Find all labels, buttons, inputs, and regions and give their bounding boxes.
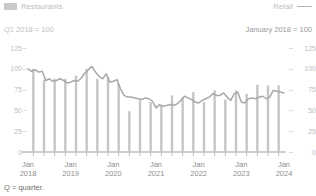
bar-swatch-icon bbox=[4, 3, 17, 10]
x-axis-label-month: Jan bbox=[136, 160, 176, 169]
chart-footnote: Q = quarter. bbox=[4, 183, 44, 192]
x-axis-label-year: 2024 bbox=[264, 169, 304, 178]
bar-q3-2020 bbox=[139, 100, 141, 152]
x-axis-label-2020: Jan2020 bbox=[93, 160, 133, 178]
chart-canvas bbox=[0, 40, 316, 156]
bar-q3-2023 bbox=[267, 85, 269, 152]
chart-legend: Restaurants Retail bbox=[0, 2, 316, 15]
bar-q2-2023 bbox=[256, 85, 258, 152]
x-axis-label-year: 2019 bbox=[51, 169, 91, 178]
plot-area: 1251007550250 1251007550250 bbox=[0, 40, 316, 156]
bar-q3-2022 bbox=[224, 100, 226, 152]
bar-q4-2022 bbox=[235, 90, 237, 152]
bar-q1-2019 bbox=[75, 75, 77, 152]
bar-q4-2018 bbox=[64, 79, 66, 152]
legend-label-retail: Retail bbox=[273, 2, 293, 11]
x-axis-label-year: 2021 bbox=[136, 169, 176, 178]
bar-q3-2018 bbox=[53, 79, 55, 152]
x-axis-label-year: 2020 bbox=[93, 169, 133, 178]
x-axis-label-year: 2023 bbox=[221, 169, 261, 178]
bar-q4-2019 bbox=[107, 77, 109, 152]
bar-q4-2020 bbox=[149, 102, 151, 152]
bar-q1-2022 bbox=[203, 102, 205, 152]
legend-item-retail: Retail bbox=[273, 2, 312, 11]
bar-q3-2021 bbox=[181, 97, 183, 152]
bar-q3-2019 bbox=[96, 79, 98, 152]
x-axis-label-month: Jan bbox=[179, 160, 219, 169]
restaurants-retail-index-chart: Restaurants Retail Q1 2018 = 100 January… bbox=[0, 0, 316, 196]
bar-q1-2020 bbox=[117, 84, 119, 152]
bar-q4-2023 bbox=[277, 85, 279, 152]
x-axis-label-year: 2022 bbox=[179, 169, 219, 178]
bar-q2-2021 bbox=[171, 95, 173, 152]
x-axis-label-month: Jan bbox=[51, 160, 91, 169]
axis-unit-row: Q1 2018 = 100 January 2018 = 100 bbox=[0, 25, 316, 37]
x-axis-label-month: Jan bbox=[221, 160, 261, 169]
legend-label-restaurants: Restaurants bbox=[21, 2, 63, 11]
right-axis-unit-label: January 2018 = 100 bbox=[245, 25, 312, 34]
bar-q1-2018 bbox=[32, 69, 34, 152]
x-axis-label-month: Jan bbox=[8, 160, 48, 169]
category-axis: Jan2018Jan2019Jan2020Jan2021Jan2022Jan20… bbox=[0, 160, 316, 180]
bar-q1-2021 bbox=[160, 105, 162, 152]
x-axis-label-2018: Jan2018 bbox=[8, 160, 48, 178]
x-axis-label-month: Jan bbox=[264, 160, 304, 169]
left-axis-unit-label: Q1 2018 = 100 bbox=[4, 25, 54, 34]
legend-item-restaurants: Restaurants bbox=[4, 2, 63, 11]
bar-q2-2022 bbox=[213, 90, 215, 152]
x-axis-label-year: 2018 bbox=[8, 169, 48, 178]
x-axis-label-2019: Jan2019 bbox=[51, 160, 91, 178]
bar-q2-2018 bbox=[43, 80, 45, 152]
x-axis-label-month: Jan bbox=[93, 160, 133, 169]
x-axis-label-2021: Jan2021 bbox=[136, 160, 176, 178]
x-axis-label-2022: Jan2022 bbox=[179, 160, 219, 178]
line-swatch-icon bbox=[297, 6, 312, 7]
x-axis-label-2023: Jan2023 bbox=[221, 160, 261, 178]
bar-q2-2019 bbox=[85, 69, 87, 152]
x-axis-label-2024: Jan2024 bbox=[264, 160, 304, 178]
bar-q2-2020 bbox=[128, 111, 130, 152]
